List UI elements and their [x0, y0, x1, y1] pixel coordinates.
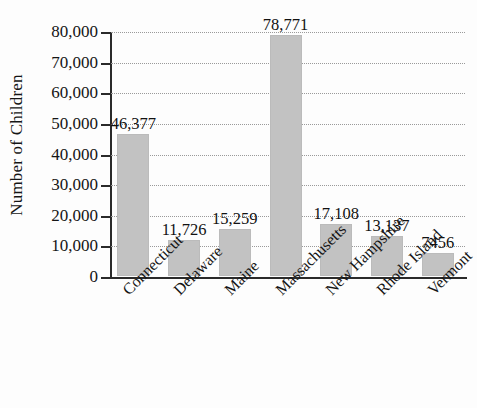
y-tick-mark [101, 124, 111, 126]
y-tick-mark [101, 185, 111, 187]
y-axis-title: Number of Children [0, 0, 34, 290]
y-tick-label: 50,000 [51, 114, 98, 134]
y-tick-mark [101, 93, 111, 95]
y-tick-mark [101, 246, 111, 248]
plot-area: 80,00070,00060,00050,00040,00030,00020,0… [110, 32, 465, 278]
y-tick-mark [101, 155, 111, 157]
y-tick-label: 10,000 [51, 236, 98, 256]
y-tick-label: 70,000 [51, 53, 98, 73]
bar [117, 134, 149, 276]
y-tick-label: 0 [90, 267, 99, 287]
bar-value-label: 46,377 [111, 114, 156, 134]
y-axis-title-text: Number of Children [7, 74, 27, 215]
bar-value-label: 78,771 [263, 15, 308, 35]
y-tick-mark [101, 277, 111, 279]
y-tick-mark [101, 63, 111, 65]
chart-figure: Number of Children 80,00070,00060,00050,… [0, 0, 477, 408]
y-tick-label: 80,000 [51, 22, 98, 42]
y-tick-label: 40,000 [51, 145, 98, 165]
bar-value-label: 15,259 [212, 209, 257, 229]
y-tick-mark [101, 32, 111, 34]
y-tick-label: 30,000 [51, 175, 98, 195]
bar [270, 35, 302, 276]
y-tick-mark [101, 216, 111, 218]
y-tick-label: 60,000 [51, 83, 98, 103]
y-tick-label: 20,000 [51, 206, 98, 226]
